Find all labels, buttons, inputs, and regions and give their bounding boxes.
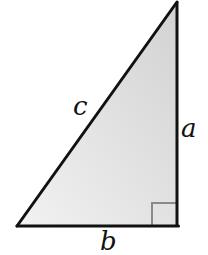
triangle-diagram: c a b — [0, 0, 208, 255]
label-a: a — [181, 113, 197, 143]
label-c: c — [73, 91, 88, 121]
label-b: b — [100, 226, 117, 255]
